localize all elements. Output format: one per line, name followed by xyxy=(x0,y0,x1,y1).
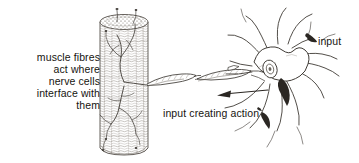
myelinated-axon-segment-right xyxy=(197,65,266,81)
neuron-cell-body xyxy=(254,47,309,81)
label-input: input xyxy=(318,35,341,47)
signal-direction-arrow xyxy=(217,90,268,98)
label-input-creating-action: input creating action xyxy=(163,107,259,119)
myelinated-axon-segment-left xyxy=(147,74,196,86)
diagram-canvas: muscle fibres act where nerve cells inte… xyxy=(0,0,359,163)
label-muscle-fibres: muscle fibres act where nerve cells inte… xyxy=(8,51,100,111)
